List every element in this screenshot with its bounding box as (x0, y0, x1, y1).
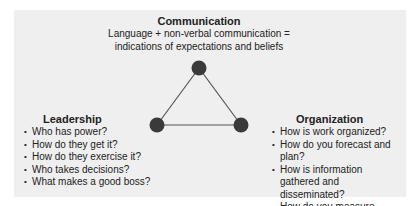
organization-block: Organization How is work organized? How … (272, 113, 400, 206)
communication-block: Communication Language + non-verbal comm… (0, 15, 398, 53)
communication-title: Communication (0, 15, 398, 27)
list-item: How is information gathered and dissemin… (272, 164, 400, 202)
leadership-block: Leadership Who has power? How do they ge… (24, 113, 150, 189)
list-item: How do you forecast and plan? (272, 139, 400, 164)
organization-title: Organization (296, 113, 400, 125)
triangle-edges (157, 68, 241, 125)
communication-line-1: Language + non-verbal communication = (0, 28, 398, 41)
communication-line-2: indications of expectations and beliefs (0, 41, 398, 54)
list-item: How do they get it? (24, 139, 150, 152)
leadership-title: Leadership (43, 113, 150, 125)
leadership-list: Who has power? How do they get it? How d… (24, 126, 150, 189)
node-leadership (150, 118, 165, 133)
organization-list: How is work organized? How do you foreca… (272, 126, 400, 206)
node-organization (234, 118, 249, 133)
list-item: Who has power? (24, 126, 150, 139)
list-item: How do they exercise it? (24, 151, 150, 164)
node-communication (192, 61, 207, 76)
list-item: What makes a good boss? (24, 176, 150, 189)
list-item: How do you measure results? (272, 201, 400, 206)
list-item: How is work organized? (272, 126, 400, 139)
list-item: Who takes decisions? (24, 164, 150, 177)
